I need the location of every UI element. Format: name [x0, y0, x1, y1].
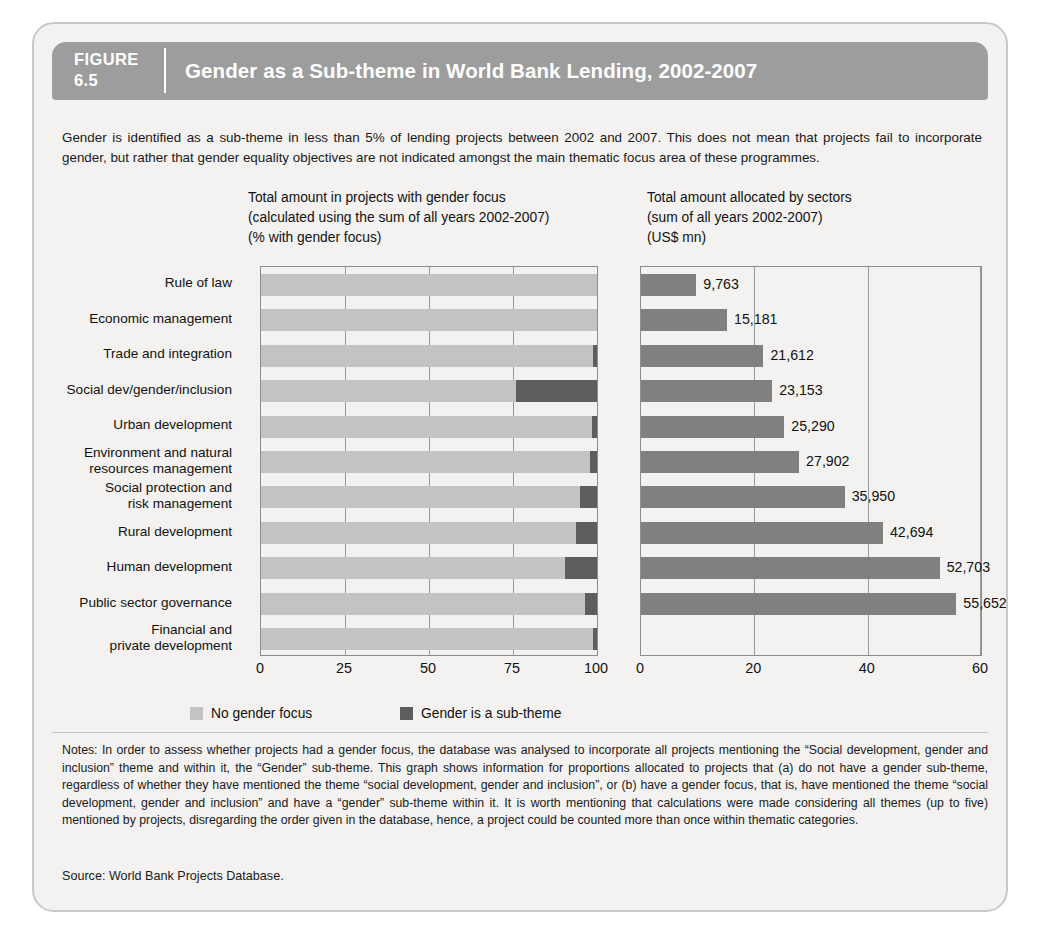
figure-number-block: FIGURE 6.5	[52, 42, 164, 100]
category-label-line: Social protection and	[46, 480, 232, 497]
x-tick-label: 20	[745, 660, 761, 676]
bar	[641, 380, 772, 402]
bar-value-label: 21,612	[770, 347, 813, 363]
chart-legend: No gender focusGender is a sub-theme	[62, 706, 622, 728]
bar-segment	[261, 380, 516, 402]
bar	[641, 486, 845, 508]
bar-segment	[261, 628, 593, 650]
category-label-line: Trade and integration	[46, 346, 232, 363]
bar	[641, 345, 763, 367]
category-label-column: Rule of lawEconomic managementTrade and …	[62, 266, 240, 656]
x-tick-label: 50	[420, 660, 436, 676]
bar-value-label: 52,703	[947, 559, 990, 575]
category-label-line: Economic management	[46, 311, 232, 328]
legend-item[interactable]: No gender focus	[190, 706, 312, 721]
category-label-line: Urban development	[46, 417, 232, 434]
bar-value-label: 35,950	[852, 488, 895, 504]
bar-value-label: 27,902	[806, 453, 849, 469]
left-chart-plot-area	[260, 266, 598, 656]
bar-segment	[565, 557, 597, 579]
x-tick-label: 75	[504, 660, 520, 676]
bar-segment	[261, 309, 597, 331]
bar-segment	[261, 345, 593, 367]
right-chart-plot-area: 9,76315,18121,61223,15325,29027,90235,95…	[640, 266, 982, 656]
category-label: Social protection andrisk management	[46, 480, 232, 513]
bar-segment	[576, 522, 597, 544]
category-label-line: Rural development	[46, 524, 232, 541]
bar-value-label: 9,763	[703, 276, 739, 292]
bar-segment	[593, 628, 597, 650]
bar-value-label: 23,153	[779, 382, 822, 398]
figure-title: Gender as a Sub-theme in World Bank Lend…	[166, 42, 988, 100]
left-chart-subtitle: Total amount in projects with gender foc…	[248, 188, 549, 248]
bar	[641, 593, 956, 615]
category-label: Trade and integration	[46, 346, 232, 363]
x-tick-label: 100	[584, 660, 608, 676]
category-label: Social dev/gender/inclusion	[46, 382, 232, 399]
right-chart-subtitle: Total amount allocated by sectors (sum o…	[647, 188, 852, 248]
x-tick-label: 0	[636, 660, 644, 676]
bar-segment	[592, 416, 597, 438]
category-label-line: resources management	[46, 461, 232, 478]
figure-number-value: 6.5	[74, 70, 164, 91]
category-label: Rural development	[46, 524, 232, 541]
category-label-line: Environment and natural	[46, 445, 232, 462]
bar	[641, 274, 696, 296]
category-label-line: Financial and	[46, 622, 232, 639]
notes-divider	[52, 732, 988, 733]
bar	[641, 557, 940, 579]
bar-value-label: 55,652	[963, 595, 1006, 611]
category-label: Urban development	[46, 417, 232, 434]
category-label: Human development	[46, 559, 232, 576]
bar-segment	[516, 380, 597, 402]
figure-page: FIGURE 6.5 Gender as a Sub-theme in Worl…	[0, 0, 1040, 946]
bar-segment	[261, 522, 576, 544]
x-tick-label: 40	[859, 660, 875, 676]
bar-value-label: 42,694	[890, 524, 933, 540]
bar-segment	[261, 274, 597, 296]
bar	[641, 416, 784, 438]
category-label-line: Public sector governance	[46, 595, 232, 612]
notes-paragraph: Notes: In order to assess whether projec…	[62, 742, 988, 830]
bar	[641, 309, 727, 331]
x-tick-label: 25	[336, 660, 352, 676]
bar-segment	[580, 486, 597, 508]
bar-segment	[261, 593, 585, 615]
legend-item[interactable]: Gender is a sub-theme	[400, 706, 561, 721]
bar-value-label: 15,181	[734, 311, 777, 327]
category-label-line: Rule of law	[46, 275, 232, 292]
figure-number-label: FIGURE	[74, 49, 164, 70]
source-line: Source: World Bank Projects Database.	[62, 868, 988, 885]
bar-segment	[585, 593, 597, 615]
bar-segment	[261, 486, 580, 508]
intro-paragraph: Gender is identified as a sub-theme in l…	[62, 128, 982, 168]
bar-segment	[590, 451, 597, 473]
charts-container: Total amount in projects with gender foc…	[62, 188, 982, 688]
category-label-line: Human development	[46, 559, 232, 576]
category-label: Financial andprivate development	[46, 622, 232, 655]
bar	[641, 522, 883, 544]
category-label: Environment and naturalresources managem…	[46, 445, 232, 478]
legend-label: Gender is a sub-theme	[421, 706, 561, 721]
figure-header: FIGURE 6.5 Gender as a Sub-theme in Worl…	[52, 42, 988, 100]
right-chart-x-axis: 0204060	[640, 660, 982, 682]
category-label: Rule of law	[46, 275, 232, 292]
category-label-line: Social dev/gender/inclusion	[46, 382, 232, 399]
category-label-line: risk management	[46, 496, 232, 513]
legend-swatch	[400, 707, 413, 720]
bar	[641, 451, 799, 473]
x-tick-label: 60	[972, 660, 988, 676]
bar-value-label: 25,290	[791, 418, 834, 434]
category-label: Economic management	[46, 311, 232, 328]
bar-segment	[261, 416, 592, 438]
bar-segment	[261, 451, 590, 473]
bar-segment	[261, 557, 565, 579]
bar-segment	[593, 345, 597, 367]
legend-swatch	[190, 707, 203, 720]
left-chart-x-axis: 0255075100	[260, 660, 598, 682]
x-tick-label: 0	[256, 660, 264, 676]
legend-label: No gender focus	[211, 706, 312, 721]
category-label: Public sector governance	[46, 595, 232, 612]
category-label-line: private development	[46, 638, 232, 655]
